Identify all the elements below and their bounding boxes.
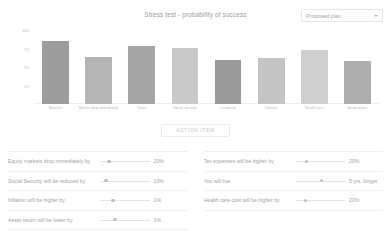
stress-test-panel: Stress test - probability of success Pro… bbox=[0, 0, 391, 231]
assumption-value: 10% bbox=[154, 178, 188, 184]
chevron-down-icon bbox=[374, 15, 378, 17]
slider-track bbox=[296, 161, 346, 162]
bar-slot bbox=[120, 30, 163, 104]
bar-slot bbox=[77, 30, 120, 104]
x-axis-tick-label: Social security bbox=[163, 104, 206, 120]
bar-slot bbox=[207, 30, 250, 104]
bar[interactable] bbox=[301, 50, 328, 104]
y-axis-tick: 75 bbox=[24, 46, 29, 51]
assumption-slider[interactable] bbox=[296, 177, 346, 185]
assumption-slider[interactable] bbox=[100, 216, 150, 224]
y-axis-tick: 100 bbox=[22, 28, 29, 33]
assumption-value: 1% bbox=[154, 197, 188, 203]
assumption-value: 20% bbox=[349, 158, 383, 164]
assumption-row: Tax expenses will be higher by20% bbox=[204, 151, 384, 172]
bar-slot bbox=[293, 30, 336, 104]
slider-handle[interactable] bbox=[320, 179, 323, 182]
y-axis: 100755025 bbox=[8, 30, 32, 104]
slider-track bbox=[100, 220, 150, 221]
x-axis-tick-label: Taxes bbox=[120, 104, 163, 120]
x-axis-tick-label: Health care bbox=[293, 104, 336, 120]
slider-track bbox=[100, 200, 150, 201]
assumption-label: Health care cost will be higher by bbox=[204, 197, 292, 203]
assumption-row: Health care cost will be higher by20% bbox=[204, 190, 384, 211]
assumption-slider[interactable] bbox=[100, 196, 150, 204]
assumption-row: Asset return will be lower by1% bbox=[8, 210, 188, 231]
slider-track bbox=[296, 200, 346, 201]
bar-slot bbox=[163, 30, 206, 104]
bar-series bbox=[34, 30, 379, 104]
assumption-row: Equity markets drop immediately by20% bbox=[8, 151, 188, 172]
x-axis-labels: BaselineMarket drop immediatelyTaxesSoci… bbox=[34, 104, 379, 120]
assumption-slider[interactable] bbox=[100, 177, 150, 185]
action-row: ACTION ITEM bbox=[0, 120, 391, 140]
x-axis-tick-label: Inflation bbox=[250, 104, 293, 120]
bar-slot bbox=[34, 30, 77, 104]
bar-slot bbox=[250, 30, 293, 104]
bar[interactable] bbox=[344, 61, 371, 104]
action-item-button[interactable]: ACTION ITEM bbox=[161, 124, 229, 137]
assumption-label: You will live bbox=[204, 178, 292, 184]
slider-handle[interactable] bbox=[111, 199, 114, 202]
assumption-slider[interactable] bbox=[296, 196, 346, 204]
x-axis-tick-label: Baseline bbox=[34, 104, 77, 120]
y-axis-tick: 25 bbox=[24, 83, 29, 88]
assumption-row: You will live5 yrs. longer bbox=[204, 171, 384, 192]
slider-handle[interactable] bbox=[113, 218, 116, 221]
slider-handle[interactable] bbox=[305, 160, 308, 163]
stress-test-bar-chart: 100755025 BaselineMarket drop immediatel… bbox=[8, 28, 383, 120]
assumptions-column-right: Tax expenses will be higher by20%You wil… bbox=[196, 152, 384, 230]
bar[interactable] bbox=[215, 60, 242, 104]
assumption-value: 20% bbox=[349, 197, 383, 203]
x-axis-tick-label: Longevity bbox=[207, 104, 250, 120]
assumption-label: Asset return will be lower by bbox=[8, 217, 96, 223]
slider-handle[interactable] bbox=[107, 160, 110, 163]
slider-handle[interactable] bbox=[104, 179, 107, 182]
assumption-label: Tax expenses will be higher by bbox=[204, 158, 292, 164]
assumption-slider[interactable] bbox=[296, 157, 346, 165]
bar[interactable] bbox=[258, 58, 285, 104]
plan-select-value: Proposed plan bbox=[306, 13, 374, 19]
bar[interactable] bbox=[172, 48, 199, 104]
plan-select-dropdown[interactable]: Proposed plan bbox=[301, 9, 383, 22]
bar[interactable] bbox=[42, 41, 69, 104]
assumption-slider[interactable] bbox=[100, 157, 150, 165]
x-axis-tick-label: Asset return bbox=[336, 104, 379, 120]
assumption-label: Equity markets drop immediately by bbox=[8, 158, 96, 164]
plot-area bbox=[34, 30, 379, 104]
assumption-value: 5 yrs. longer bbox=[349, 178, 383, 184]
assumptions-column-left: Equity markets drop immediately by20%Soc… bbox=[8, 152, 196, 230]
assumption-value: 1% bbox=[154, 217, 188, 223]
assumption-value: 20% bbox=[154, 158, 188, 164]
x-axis-tick-label: Market drop immediately bbox=[77, 104, 120, 120]
bar[interactable] bbox=[128, 46, 155, 104]
slider-handle[interactable] bbox=[304, 199, 307, 202]
bar[interactable] bbox=[85, 57, 112, 104]
assumption-label: Inflation will be higher by bbox=[8, 197, 96, 203]
chart-header: Stress test - probability of success Pro… bbox=[0, 0, 391, 26]
y-axis-tick: 50 bbox=[24, 65, 29, 70]
assumption-label: Social Security will be reduced by bbox=[8, 178, 96, 184]
assumption-row: Inflation will be higher by1% bbox=[8, 190, 188, 211]
assumption-row: Social Security will be reduced by10% bbox=[8, 171, 188, 192]
assumptions-table: Equity markets drop immediately by20%Soc… bbox=[8, 152, 383, 230]
bar-slot bbox=[336, 30, 379, 104]
